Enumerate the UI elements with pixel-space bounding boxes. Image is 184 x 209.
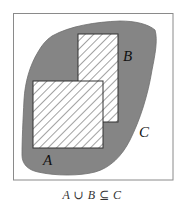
set-a-region <box>33 81 103 148</box>
subset-diagram: B C A <box>0 0 184 209</box>
set-a-label: A <box>42 152 53 168</box>
set-c-label: C <box>139 124 150 140</box>
set-b-label: B <box>123 48 132 64</box>
diagram-caption: A ∪ B ⊆ C <box>0 188 184 203</box>
